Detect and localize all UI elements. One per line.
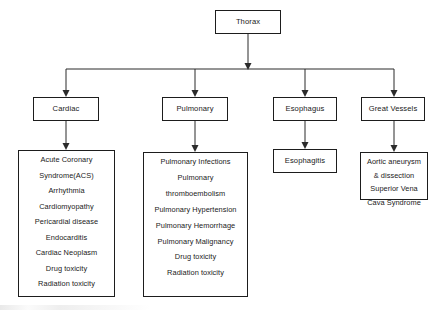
node-thorax[interactable]: Thorax [215, 10, 281, 34]
node-pulmonary-label: Pulmonary [176, 105, 213, 114]
arrowhead-cardiac-list [63, 143, 70, 150]
list-item: Aortic aneurysm [361, 158, 427, 167]
scan-edge-artifact [0, 305, 437, 310]
list-item: Syndrome(ACS) [19, 172, 114, 181]
node-great-vessels[interactable]: Great Vessels [361, 97, 425, 121]
list-item: Pulmonary Hemorrhage [144, 222, 247, 231]
node-pulmonary-conditions[interactable]: Pulmonary Infections Pulmonary thromboem… [143, 152, 248, 297]
flowchart-diagram: Thorax Cardiac Pulmonary Esophagus Great… [0, 0, 437, 310]
node-cardiac-label: Cardiac [53, 105, 80, 114]
arrowhead-esophagus [302, 90, 309, 97]
list-item: Endocarditis [19, 234, 114, 243]
list-item: Cardiac Neoplasm [19, 249, 114, 258]
list-item: Radiation toxicity [144, 269, 247, 278]
list-item: Radiation toxicity [19, 280, 114, 289]
arrowhead-cardiac [63, 90, 70, 97]
list-item: Cardiomyopathy [19, 203, 114, 212]
list-item: thromboembolism [144, 190, 247, 199]
list-item: Superior Vena [361, 185, 427, 194]
arrowhead-great-vessels [391, 90, 398, 97]
arrowhead-esophagitis [302, 142, 309, 149]
node-cardiac[interactable]: Cardiac [33, 97, 99, 121]
arrowhead-pulmonary-list [192, 145, 199, 152]
arrowhead-pulmonary [192, 90, 199, 97]
node-esophagus[interactable]: Esophagus [273, 97, 337, 121]
list-item: Pericardial disease [19, 218, 114, 227]
list-item: Arrhythmia [19, 187, 114, 196]
node-cardiac-conditions[interactable]: Acute Coronary Syndrome(ACS) Arrhythmia … [18, 150, 115, 297]
list-item: Drug toxicity [19, 265, 114, 274]
list-item: Pulmonary Malignancy [144, 238, 247, 247]
list-item: Pulmonary Infections [144, 158, 247, 167]
node-esophagitis[interactable]: Esophagitis [273, 149, 337, 173]
node-esophagitis-label: Esophagitis [285, 157, 325, 166]
list-item: & dissection [361, 172, 427, 181]
list-item: Drug toxicity [144, 253, 247, 262]
list-item: Pulmonary [144, 174, 247, 183]
list-item: Cava Syndrome [361, 199, 427, 208]
node-thorax-label: Thorax [236, 18, 260, 27]
list-item: Acute Coronary [19, 156, 114, 165]
node-great-vessels-label: Great Vessels [369, 105, 418, 114]
list-item: Pulmonary Hypertension [144, 206, 247, 215]
node-great-vessels-conditions[interactable]: Aortic aneurysm & dissection Superior Ve… [360, 152, 428, 200]
node-esophagus-label: Esophagus [286, 105, 325, 114]
arrowhead-great-vessels-list [391, 145, 398, 152]
node-pulmonary[interactable]: Pulmonary [162, 97, 228, 121]
